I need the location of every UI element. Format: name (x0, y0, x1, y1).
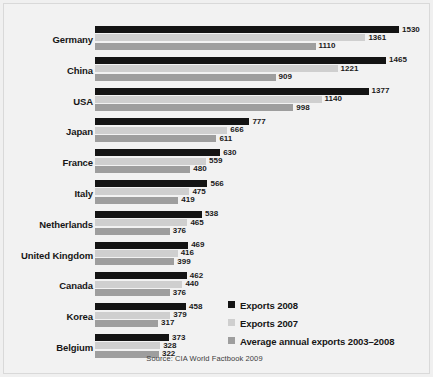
bar-1 (95, 127, 227, 134)
legend-item: Average annual exports 2003–2008 (228, 332, 428, 350)
bar-row: 317 (95, 320, 158, 327)
bar-row: 566 (95, 180, 207, 187)
bar-row: 1140 (95, 96, 322, 103)
bar-value-label: 538 (205, 209, 218, 218)
legend-item: Exports 2008 (228, 296, 428, 314)
bar-group: France630559480 (0, 149, 433, 180)
bar-value-label: 1377 (372, 86, 390, 95)
bar-value-label: 998 (296, 103, 309, 112)
category-label: Germany (0, 34, 93, 45)
bar-value-label: 559 (209, 156, 222, 165)
bar-row: 998 (95, 104, 293, 111)
bar-value-label: 611 (219, 134, 232, 143)
legend-label: Exports 2007 (240, 318, 298, 329)
category-label: Canada (0, 280, 93, 291)
bar-group: China14651221909 (0, 57, 433, 88)
bar-value-label: 419 (181, 195, 194, 204)
bar-0 (95, 180, 207, 187)
bar-row: 1530 (95, 26, 399, 33)
bar-row: 373 (95, 334, 169, 341)
legend-swatch-icon (228, 301, 235, 308)
bar-row: 419 (95, 197, 178, 204)
bar-0 (95, 26, 399, 33)
bar-row: 538 (95, 211, 202, 218)
category-label: China (0, 65, 93, 76)
bar-2 (95, 43, 316, 50)
bar-value-label: 376 (173, 226, 186, 235)
bar-row: 376 (95, 289, 170, 296)
bar-value-label: 1140 (325, 94, 342, 103)
bar-1 (95, 96, 322, 103)
bar-2 (95, 135, 216, 142)
bar-value-label: 379 (173, 310, 186, 319)
bar-2 (95, 320, 158, 327)
bar-row: 777 (95, 118, 249, 125)
bar-value-label: 399 (177, 257, 190, 266)
category-label: Korea (0, 311, 93, 322)
legend-item: Exports 2007 (228, 314, 428, 332)
bar-value-label: 666 (230, 125, 243, 134)
bar-row: 376 (95, 228, 170, 235)
bar-value-label: 909 (279, 72, 292, 81)
bar-row: 475 (95, 188, 189, 195)
category-label: Italy (0, 188, 93, 199)
bar-value-label: 480 (193, 164, 206, 173)
bar-row: 379 (95, 312, 170, 319)
category-label: United Kingdom (0, 250, 93, 261)
bar-value-label: 458 (189, 302, 202, 311)
bar-2 (95, 166, 190, 173)
category-label: USA (0, 96, 93, 107)
category-label: Japan (0, 126, 93, 137)
bar-0 (95, 334, 169, 341)
bar-0 (95, 211, 202, 218)
bar-value-label: 465 (190, 218, 203, 227)
bar-value-label: 1465 (389, 55, 407, 64)
chart-legend: Exports 2008Exports 2007Average annual e… (228, 296, 428, 350)
bar-group: United Kingdom469416399 (0, 242, 433, 273)
bar-row: 480 (95, 166, 190, 173)
legend-swatch-icon (228, 337, 235, 344)
bar-group: Germany153013611110 (0, 26, 433, 57)
bar-group: Netherlands538465376 (0, 211, 433, 242)
legend-label: Average annual exports 2003–2008 (240, 336, 394, 347)
category-label: France (0, 157, 93, 168)
bar-1 (95, 312, 170, 319)
bar-2 (95, 289, 170, 296)
bar-value-label: 376 (173, 288, 186, 297)
bar-1 (95, 250, 178, 257)
bar-0 (95, 242, 188, 249)
bar-2 (95, 74, 276, 81)
bar-row: 1221 (95, 65, 338, 72)
bar-group: USA13771140998 (0, 88, 433, 119)
bar-value-label: 1110 (319, 41, 336, 50)
bar-group: Italy566475419 (0, 180, 433, 211)
category-label: Netherlands (0, 219, 93, 230)
bar-value-label: 777 (252, 117, 265, 126)
category-label: Belgium (0, 342, 93, 353)
bar-value-label: 317 (161, 318, 174, 327)
bar-2 (95, 104, 293, 111)
bar-group: Japan777666611 (0, 118, 433, 149)
bar-row: 1110 (95, 43, 316, 50)
bar-row: 399 (95, 258, 174, 265)
bar-2 (95, 258, 174, 265)
bar-1 (95, 188, 189, 195)
bar-row: 440 (95, 281, 182, 288)
bar-row: 630 (95, 149, 220, 156)
bar-row: 559 (95, 158, 206, 165)
legend-swatch-icon (228, 319, 235, 326)
bar-1 (95, 158, 206, 165)
bar-0 (95, 149, 220, 156)
bar-row: 462 (95, 272, 187, 279)
bar-row: 909 (95, 74, 276, 81)
bar-1 (95, 65, 338, 72)
source-note: Source: CIA World Factbook 2009 (0, 354, 433, 363)
bar-row: 469 (95, 242, 188, 249)
bar-1 (95, 342, 160, 349)
bar-value-label: 630 (223, 148, 236, 157)
bar-row: 328 (95, 342, 160, 349)
bar-0 (95, 118, 249, 125)
legend-label: Exports 2008 (240, 300, 298, 311)
bar-row: 611 (95, 135, 216, 142)
bar-value-label: 566 (210, 179, 223, 188)
